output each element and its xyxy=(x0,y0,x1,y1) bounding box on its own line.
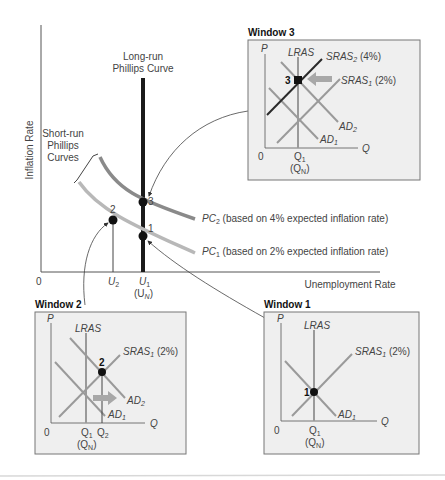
w3-point-label: 3 xyxy=(285,75,291,86)
w3-lras-label: LRAS xyxy=(288,47,314,58)
w2-p-label: P xyxy=(47,313,54,324)
srpc-label: Short-run xyxy=(42,128,84,139)
pc1-label: PC1 (based on 2% expected inflation rate… xyxy=(202,246,388,258)
w2-point-label: 2 xyxy=(99,357,105,368)
point-3 xyxy=(139,198,148,207)
u1-tick: U1 xyxy=(139,276,150,288)
point-2-label: 2 xyxy=(110,204,116,215)
w1-origin: 0 xyxy=(274,425,280,436)
w3-origin: 0 xyxy=(258,151,264,162)
bottom-divider xyxy=(0,475,445,476)
window-2: Window 2 P Q 0 LRAS AD2 AD1 SRAS1 (2%) 2… xyxy=(35,299,186,454)
w3-p-label: P xyxy=(261,43,268,54)
point-1-label: 1 xyxy=(148,223,154,234)
w2-lras-label: LRAS xyxy=(75,323,101,334)
window-3: Window 3 P Q 0 LRAS AD2 AD1 SRAS1 (2%) S… xyxy=(248,27,420,180)
w3-q-label: Q xyxy=(362,143,370,154)
w1-point-label: 1 xyxy=(304,387,310,398)
pc2-label: PC2 (based on 4% expected inflation rate… xyxy=(202,213,388,225)
un-tick: (UN) xyxy=(134,288,153,300)
w2-q-label: Q xyxy=(150,418,158,429)
phillips-curve-diagram: Inflation Rate Unemployment Rate 0 Long-… xyxy=(0,0,445,480)
srpc-label-2: Phillips xyxy=(47,140,79,151)
x-axis-label: Unemployment Rate xyxy=(304,279,396,290)
w1-point-1 xyxy=(310,388,318,396)
window-2-title: Window 2 xyxy=(35,299,82,310)
u2-tick: U2 xyxy=(108,276,119,288)
point-2 xyxy=(109,216,118,225)
srpc-label-3: Curves xyxy=(47,152,79,163)
point-1 xyxy=(139,232,148,241)
w1-p-label: P xyxy=(277,313,284,324)
window-1: Window 1 P Q 0 LRAS AD1 SRAS1 (2%) 1 Q1 … xyxy=(264,299,419,454)
w2-origin: 0 xyxy=(44,427,50,438)
arrow-window2-to-point2 xyxy=(84,223,108,305)
y-axis-label: Inflation Rate xyxy=(24,120,35,179)
w3-point-3 xyxy=(294,76,302,84)
window-1-title: Window 1 xyxy=(264,299,311,310)
pc1-curve xyxy=(79,182,195,253)
point-3-label: 3 xyxy=(148,196,154,207)
w3-qn-tick: (QN) xyxy=(290,163,310,175)
w1-qn-tick: (QN) xyxy=(305,437,325,449)
arrow-window3-to-point3 xyxy=(149,111,248,196)
lrpc-label: Long-run xyxy=(123,51,163,62)
lrpc-label-2: Phillips Curve xyxy=(112,63,174,74)
window-3-title: Window 3 xyxy=(248,27,295,38)
window-1-frame xyxy=(264,312,419,454)
w1-lras-label: LRAS xyxy=(304,320,330,331)
w2-point-2 xyxy=(98,368,106,376)
w1-q-label: Q xyxy=(381,416,389,427)
w2-qn-tick: (QN) xyxy=(77,439,97,451)
origin-label: 0 xyxy=(36,276,42,287)
